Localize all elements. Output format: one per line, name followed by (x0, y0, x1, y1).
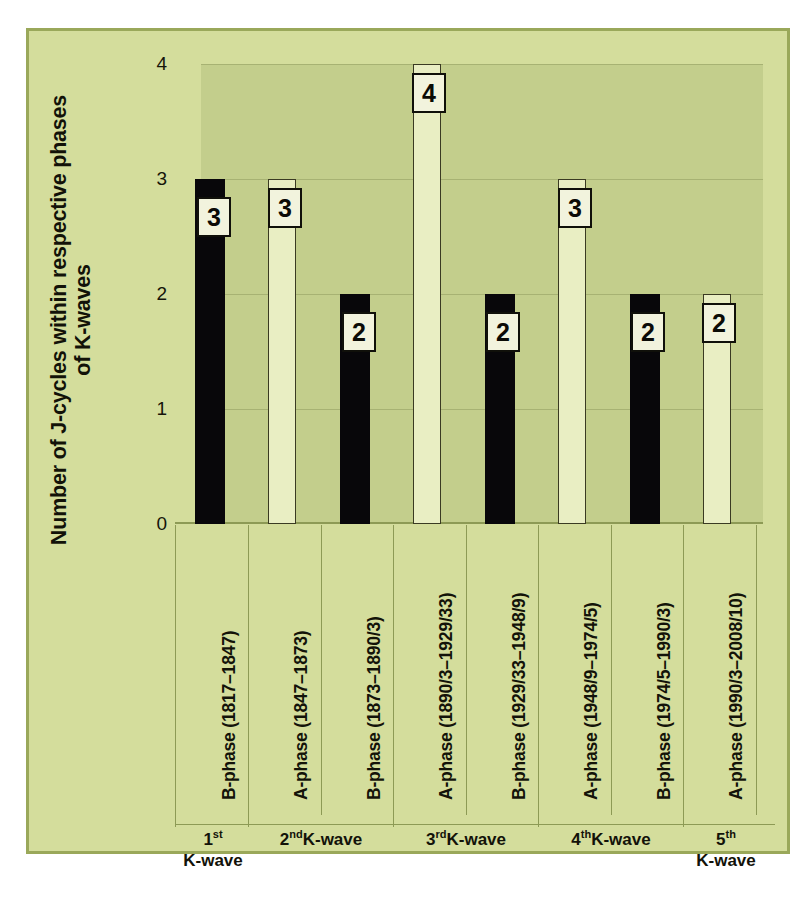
value-label-6: 2 (631, 312, 665, 352)
group-name-4: K-wave (591, 830, 651, 849)
category-label-1: A-phase (1847–1873) (291, 538, 313, 800)
y-tick-1: 1 (141, 398, 167, 420)
gridline-3 (175, 179, 763, 180)
category-separator-4 (466, 525, 467, 815)
category-separator-1 (248, 525, 249, 815)
y-axis-title-line1: Number of J-cycles within respective pha… (47, 95, 71, 545)
category-label-6: B-phase (1974/5–1990/3) (654, 538, 676, 800)
y-tick-3: 3 (141, 168, 167, 190)
category-label-2: B-phase (1873–1890/3) (364, 538, 386, 800)
y-tick-0: 0 (141, 513, 167, 535)
category-separator-6 (611, 525, 612, 815)
group-suffix-4: th (581, 828, 591, 840)
group-name-2: K-wave (303, 830, 363, 849)
category-separator-0 (175, 525, 176, 815)
group-name-1: K-wave (183, 851, 243, 870)
value-label-1: 3 (268, 188, 302, 228)
group-axis-line (175, 824, 775, 825)
group-separator-3 (538, 815, 539, 827)
category-label-4: B-phase (1929/33–1948/9) (509, 538, 531, 800)
gridline-2 (175, 294, 763, 295)
value-label-7: 2 (702, 303, 736, 343)
group-label-3rd-k-wave: 3rdK-wave (426, 828, 506, 850)
chart-card: Number of J-cycles within respective pha… (26, 28, 790, 854)
value-label-2: 2 (342, 312, 376, 352)
group-ordinal-5: 5 (716, 830, 725, 849)
group-suffix-1: st (213, 828, 223, 840)
category-label-5: A-phase (1948/9–1974/5) (581, 538, 603, 800)
group-suffix-2: nd (289, 828, 302, 840)
y-tick-4: 4 (141, 53, 167, 75)
group-separator-0 (175, 815, 176, 827)
category-label-0: B-phase (1817–1847) (219, 538, 241, 800)
group-separator-1 (248, 815, 249, 827)
gridline-1 (175, 409, 763, 410)
category-separator-3 (393, 525, 394, 815)
value-label-4: 2 (486, 312, 520, 352)
category-separator-5 (538, 525, 539, 815)
y-axis-title-line2: of K-waves (71, 264, 95, 376)
y-tick-2: 2 (141, 283, 167, 305)
bar-5-a-phase-1948-1974[interactable] (558, 179, 586, 524)
group-suffix-3: rd (435, 828, 446, 840)
category-separator-8 (756, 525, 757, 815)
group-label-1st-k-wave: 1st K-wave (183, 828, 243, 871)
category-label-3: A-phase (1890/3–1929/33) (436, 538, 458, 800)
category-separator-2 (321, 525, 322, 815)
category-separator-7 (683, 525, 684, 815)
group-separator-4 (683, 815, 684, 827)
bar-1-a-phase-1847-1873[interactable] (268, 179, 296, 524)
group-label-4th-k-wave: 4thK-wave (571, 828, 650, 850)
value-label-0: 3 (197, 197, 231, 237)
value-label-3: 4 (412, 73, 446, 113)
group-name-3: K-wave (446, 830, 506, 849)
axis-baseline (175, 522, 763, 524)
figure-canvas: Number of J-cycles within respective pha… (0, 0, 812, 902)
category-label-7: A-phase (1990/3–2008/10) (726, 538, 748, 800)
value-label-5: 3 (558, 188, 592, 228)
y-axis-title: Number of J-cycles within respective pha… (40, 40, 102, 600)
bar-3-a-phase-1890-1929[interactable] (413, 64, 441, 524)
gridline-4 (175, 64, 763, 65)
plot-area (175, 64, 763, 524)
group-name-5: K-wave (696, 851, 756, 870)
y-axis-ticks: 4 3 2 1 0 (133, 31, 167, 857)
group-ordinal-1: 1 (203, 830, 212, 849)
group-suffix-5: th (726, 828, 736, 840)
group-label-5th-k-wave: 5th K-wave (696, 828, 756, 871)
group-label-2nd-k-wave: 2ndK-wave (280, 828, 362, 850)
group-separator-2 (393, 815, 394, 827)
